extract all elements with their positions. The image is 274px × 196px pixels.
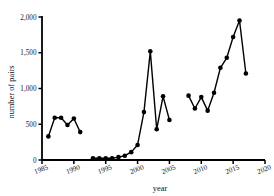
data-point [72, 116, 77, 121]
data-point [103, 156, 108, 161]
y-tick-label: 0 [33, 157, 37, 165]
x-tick-label: 1990 [65, 163, 82, 176]
data-point [116, 155, 121, 160]
data-line-1986-1991 [48, 118, 80, 137]
data-point [110, 156, 115, 161]
x-tick-label: 1985 [33, 163, 50, 176]
data-point [91, 156, 96, 161]
data-point [193, 106, 198, 111]
data-point [46, 134, 51, 139]
data-point [199, 95, 204, 100]
data-point [224, 55, 229, 60]
data-point [244, 71, 249, 76]
y-axis-title: number of pairs [7, 65, 16, 118]
line-chart: 05001,0001,5002,000198519901995200020052… [0, 0, 274, 196]
data-point [148, 49, 153, 54]
data-point [142, 110, 147, 115]
tick-mark-layer [39, 17, 266, 164]
x-tick-label: 2000 [129, 163, 146, 176]
y-tick-label: 500 [26, 121, 37, 129]
data-line-2008-2017 [189, 21, 246, 111]
data-point [237, 18, 242, 23]
data-point [65, 123, 70, 128]
x-tick-label: 2015 [224, 163, 241, 176]
data-point [218, 65, 223, 70]
data-line-1993-2005 [93, 51, 169, 158]
x-tick-label: 1995 [97, 163, 114, 176]
x-axis-title: year [153, 184, 168, 193]
data-point [97, 156, 102, 161]
data-point [161, 94, 166, 99]
data-point [123, 153, 128, 158]
data-point [78, 130, 83, 135]
data-point [52, 116, 57, 121]
data-point [186, 93, 191, 98]
data-series-layer [46, 18, 248, 160]
chart-container: 05001,0001,5002,000198519901995200020052… [0, 0, 274, 196]
data-point [154, 127, 159, 132]
data-point [135, 143, 140, 148]
data-point [167, 118, 172, 123]
data-point [231, 35, 236, 40]
y-tick-label: 1,500 [20, 49, 37, 57]
data-point [129, 150, 134, 155]
x-tick-label: 2005 [161, 163, 178, 176]
y-tick-label: 2,000 [20, 14, 37, 22]
y-tick-label: 1,000 [20, 85, 37, 93]
data-point [205, 108, 210, 113]
x-tick-label: 2020 [256, 163, 273, 176]
data-point [212, 90, 217, 95]
data-point [59, 116, 64, 121]
x-tick-label: 2010 [192, 163, 209, 176]
